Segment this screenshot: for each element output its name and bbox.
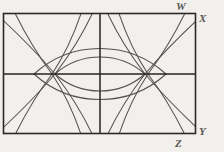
geometric-figure	[0, 0, 224, 152]
vertex-label-w: W	[176, 1, 186, 12]
vertex-label-y: Y	[199, 126, 206, 137]
vertex-label-x: X	[199, 13, 206, 24]
vertex-label-z: Z	[175, 138, 182, 149]
figure-canvas: W X Y Z	[0, 0, 224, 152]
